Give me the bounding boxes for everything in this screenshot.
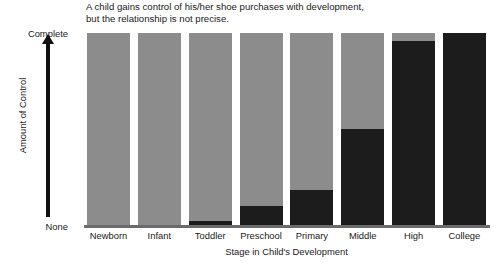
y-axis-label: Amount of Control — [17, 51, 28, 181]
x-tick-high: High — [392, 230, 435, 244]
plot-area — [87, 33, 486, 225]
bar-segment-parent-control — [341, 33, 384, 129]
bar-segment-parent-control — [138, 33, 181, 225]
chart-title: A child gains control of his/her shoe pu… — [86, 1, 416, 25]
bar-segment-parent-control — [87, 33, 130, 225]
bar-segment-parent-control — [392, 33, 435, 41]
x-tick-newborn: Newborn — [87, 230, 130, 244]
bar-high[interactable] — [392, 33, 435, 225]
bar-segment-child-control — [290, 190, 333, 225]
x-axis-line — [84, 225, 490, 228]
bar-segment-child-control — [443, 33, 486, 225]
x-tick-toddler: Toddler — [189, 230, 232, 244]
bar-college[interactable] — [443, 33, 486, 225]
x-tick-preschool: Preschool — [240, 230, 283, 244]
x-axis-label: Stage in Child's Development — [87, 246, 486, 257]
bar-segment-child-control — [341, 129, 384, 225]
bar-toddler[interactable] — [189, 33, 232, 225]
bar-infant[interactable] — [138, 33, 181, 225]
y-axis: Complete None Amount of Control — [0, 28, 80, 233]
x-tick-infant: Infant — [138, 230, 181, 244]
bar-segment-child-control — [240, 206, 283, 225]
bar-middle[interactable] — [341, 33, 384, 225]
x-tick-college: College — [443, 230, 486, 244]
chart-figure: A child gains control of his/her shoe pu… — [0, 0, 501, 273]
x-tick-middle: Middle — [341, 230, 384, 244]
bar-newborn[interactable] — [87, 33, 130, 225]
y-axis-line — [46, 42, 50, 217]
bar-segment-parent-control — [290, 33, 333, 190]
x-tick-primary: Primary — [290, 230, 333, 244]
bar-segment-parent-control — [189, 33, 232, 221]
bar-segment-child-control — [392, 41, 435, 225]
bar-segment-parent-control — [240, 33, 283, 206]
y-axis-tick-none: None — [46, 221, 68, 232]
bar-preschool[interactable] — [240, 33, 283, 225]
x-axis-tick-labels: NewbornInfantToddlerPreschoolPrimaryMidd… — [87, 230, 486, 244]
bar-primary[interactable] — [290, 33, 333, 225]
